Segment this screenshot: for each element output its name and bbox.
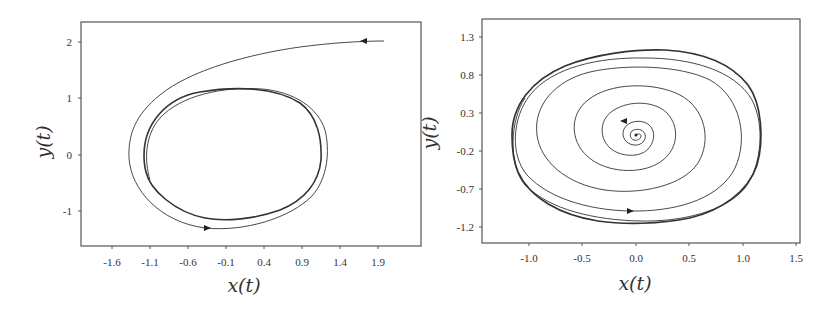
right-xtick-label: 1.0 [736, 252, 750, 264]
left-plot: 2 1 0 -1 -1.6 -1.1 -0.6 -0.1 0.4 0.9 1.4… [32, 22, 421, 296]
right-origin-point [635, 134, 638, 137]
right-xtick-label: 0.0 [629, 252, 643, 264]
left-xtick-label: 1.4 [333, 256, 347, 268]
left-xtick-label: -1.1 [141, 256, 158, 268]
right-xtick-label: 1.5 [789, 252, 803, 264]
left-xtick-label: -0.1 [217, 256, 234, 268]
left-xtick-label: -0.6 [179, 256, 197, 268]
right-ytick-label: 0.3 [460, 107, 474, 119]
right-ytick-label: 0.8 [460, 69, 474, 81]
right-x-axis-title: x(t) [618, 272, 651, 294]
figure: 2 1 0 -1 -1.6 -1.1 -0.6 -0.1 0.4 0.9 1.4… [0, 0, 827, 313]
left-xtick-label: 0.9 [295, 256, 309, 268]
right-arrow-icon [627, 208, 634, 214]
right-xtick-label: 0.5 [682, 252, 696, 264]
left-xtick-label: -1.6 [103, 256, 121, 268]
left-ytick-label: -1 [63, 205, 72, 217]
left-trajectories [129, 41, 384, 229]
right-arrow-icon [620, 118, 627, 124]
right-xtick-label: -0.5 [573, 252, 591, 264]
left-y-axis-title: y(t) [32, 125, 54, 159]
right-ytick-label: -1.2 [457, 221, 474, 233]
left-xtick-label: 0.4 [257, 256, 271, 268]
left-xtick-label: 1.9 [371, 256, 385, 268]
right-limit-cycle [512, 50, 761, 224]
right-plot: 1.3 0.8 0.3 -0.2 -0.7 -1.2 -1.0 -0.5 0.0… [418, 19, 803, 294]
right-plot-frame [482, 19, 800, 243]
right-trajectories [512, 50, 761, 224]
left-x-axis-title: x(t) [227, 274, 260, 296]
left-arrow-icon [360, 38, 367, 44]
right-spiral [513, 58, 760, 221]
left-ytick-label: 2 [67, 36, 73, 48]
left-ytick-label: 0 [67, 149, 73, 161]
right-ytick-label: 1.3 [460, 31, 474, 43]
left-ytick-label: 1 [67, 92, 73, 104]
right-y-axis-title: y(t) [418, 116, 440, 150]
right-ytick-label: -0.2 [457, 145, 474, 157]
left-arrow-icon [204, 225, 211, 231]
right-xtick-label: -1.0 [520, 252, 538, 264]
right-ytick-label: -0.7 [457, 183, 475, 195]
